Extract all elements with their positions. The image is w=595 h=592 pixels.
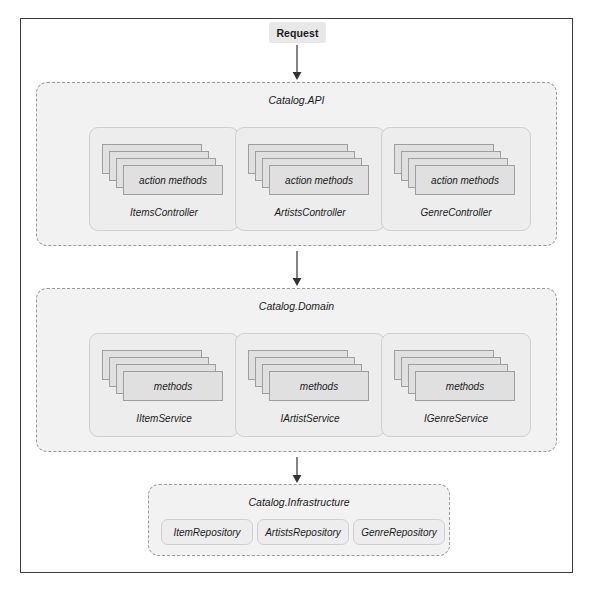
component-igenreservice: methodsIGenreService — [381, 333, 531, 437]
component-label-itemscontroller: ItemsController — [90, 207, 238, 218]
layer-api: Catalog.APIaction methodsItemsController… — [36, 82, 557, 246]
iartistservice-stack: methods — [248, 350, 372, 408]
arrow-api-to-domain — [289, 251, 305, 286]
artistscontroller-stack: action methods — [248, 144, 372, 202]
component-label-artistscontroller: ArtistsController — [236, 207, 384, 218]
request-badge: Request — [269, 22, 326, 43]
component-artistsrepository: ArtistsRepository — [257, 519, 349, 545]
igenreservice-stack-label: methods — [446, 381, 484, 392]
iitemservice-card: methods — [123, 371, 223, 401]
component-label-artistsrepository: ArtistsRepository — [265, 527, 341, 538]
diagram-canvas: Request Catalog.APIaction methodsItemsCo… — [0, 0, 595, 592]
artistscontroller-stack-label: action methods — [285, 175, 353, 186]
request-label: Request — [276, 27, 318, 39]
component-genrerepository: GenreRepository — [353, 519, 445, 545]
component-itemrepository: ItemRepository — [161, 519, 253, 545]
component-iitemservice: methodsIItemService — [89, 333, 239, 437]
itemscontroller-stack: action methods — [102, 144, 226, 202]
iartistservice-card: methods — [269, 371, 369, 401]
component-itemscontroller: action methodsItemsController — [89, 127, 239, 231]
igenreservice-card: methods — [415, 371, 515, 401]
component-iartistservice: methodsIArtistService — [235, 333, 385, 437]
component-label-genrecontroller: GenreController — [382, 207, 530, 218]
artistscontroller-card: action methods — [269, 165, 369, 195]
layer-infrastructure: Catalog.InfrastructureItemRepositoryArti… — [148, 484, 450, 556]
iitemservice-stack-label: methods — [154, 381, 192, 392]
genrecontroller-stack-label: action methods — [431, 175, 499, 186]
itemscontroller-stack-label: action methods — [139, 175, 207, 186]
layer-domain: Catalog.DomainmethodsIItemServicemethods… — [36, 288, 557, 452]
layer-title-domain: Catalog.Domain — [37, 300, 556, 312]
genrecontroller-card: action methods — [415, 165, 515, 195]
layer-title-infrastructure: Catalog.Infrastructure — [149, 496, 449, 508]
component-label-igenreservice: IGenreService — [382, 413, 530, 424]
iitemservice-stack: methods — [102, 350, 226, 408]
component-label-iitemservice: IItemService — [90, 413, 238, 424]
genrecontroller-stack: action methods — [394, 144, 518, 202]
arrow-request-to-api — [289, 45, 305, 80]
arrow-domain-to-infrastructure — [289, 457, 305, 483]
component-label-iartistservice: IArtistService — [236, 413, 384, 424]
layer-title-api: Catalog.API — [37, 94, 556, 106]
iartistservice-stack-label: methods — [300, 381, 338, 392]
igenreservice-stack: methods — [394, 350, 518, 408]
component-label-genrerepository: GenreRepository — [361, 527, 437, 538]
component-label-itemrepository: ItemRepository — [173, 527, 240, 538]
component-artistscontroller: action methodsArtistsController — [235, 127, 385, 231]
itemscontroller-card: action methods — [123, 165, 223, 195]
component-genrecontroller: action methodsGenreController — [381, 127, 531, 231]
